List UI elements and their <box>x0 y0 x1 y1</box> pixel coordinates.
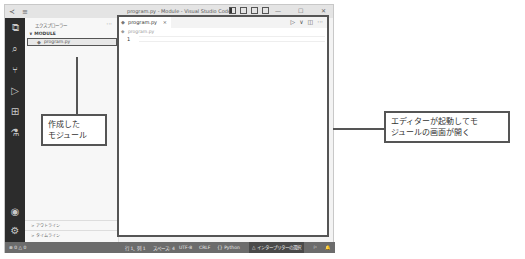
vscode-logo-icon: ≺ <box>7 8 17 16</box>
search-icon[interactable]: ⌕ <box>9 43 21 55</box>
source-control-icon[interactable]: ⑂ <box>9 64 21 76</box>
timeline-section[interactable]: > タイムライン <box>25 230 119 240</box>
menu-icon[interactable]: ≡ <box>20 8 30 16</box>
testing-icon[interactable]: ⚗ <box>9 127 21 139</box>
callout-editor: エディターが起動してモ ジュールの画面が開く <box>384 111 510 143</box>
select-interpreter[interactable]: △ インタープリターの選択 <box>249 242 304 253</box>
notifications-icon[interactable]: 🔔 <box>325 245 331 250</box>
callout-connector <box>76 57 78 115</box>
line-number: 1 <box>127 36 130 42</box>
explorer-icon[interactable]: ⧉ <box>9 22 21 34</box>
callout-text-line: モジュール <box>48 130 100 141</box>
toggle-panel-icon[interactable] <box>240 7 247 14</box>
more-actions-icon[interactable]: ··· <box>317 18 323 25</box>
more-actions-icon[interactable]: ··· <box>106 20 112 27</box>
file-name: program.py <box>44 39 70 44</box>
breadcrumb[interactable]: ◆ program.py <box>128 29 154 34</box>
language-mode[interactable]: {} Python <box>217 245 240 250</box>
customize-layout-icon[interactable] <box>262 7 269 14</box>
callout-text-line: エディターが起動してモ <box>391 116 503 127</box>
file-program-py[interactable]: ◆ program.py <box>27 38 117 46</box>
explorer-title: エクスプローラー <box>35 22 67 28</box>
python-file-icon: ◆ <box>121 17 125 28</box>
outline-section[interactable]: > アウトライン <box>25 220 119 230</box>
tab-program-py[interactable]: ◆ program.py × <box>119 17 171 28</box>
code-line-1[interactable] <box>139 36 325 42</box>
feedback-icon[interactable]: ⚐ <box>313 245 317 250</box>
maximize-button[interactable]: ☐ <box>298 7 303 14</box>
editor-area: ◆ program.py × ▷ ∨ ◫ ··· ◆ program.py 1 <box>117 15 329 237</box>
callout-text-line: 作成した <box>48 119 100 130</box>
toggle-sidebar-icon[interactable] <box>229 7 236 14</box>
python-file-icon: ◆ <box>121 29 124 34</box>
cursor-position[interactable]: 行 1、列 1 <box>125 245 146 251</box>
run-debug-icon[interactable]: ▷ <box>9 85 21 97</box>
minimize-button[interactable]: — <box>275 7 281 14</box>
run-menu-chevron-icon[interactable]: ∨ <box>299 18 303 25</box>
status-bar: ⊗ 0 △ 0 行 1、列 1 スペース: 4 UTF-8 CRLF {} Py… <box>5 242 335 253</box>
activity-bar: ⧉ ⌕ ⑂ ▷ ⊞ ⚗ ◉ ⚙ <box>5 18 25 242</box>
problems-status[interactable]: ⊗ 0 △ 0 <box>9 245 26 250</box>
layout-controls <box>229 7 269 14</box>
callout-module: 作成した モジュール <box>41 114 107 146</box>
editor-actions: ▷ ∨ ◫ ··· <box>291 18 323 25</box>
callout-text-line: ジュールの画面が開く <box>391 127 503 138</box>
close-button[interactable]: ✕ <box>321 7 326 14</box>
tab-label: program.py <box>128 19 157 25</box>
account-icon[interactable]: ◉ <box>9 206 21 218</box>
toggle-secondary-sidebar-icon[interactable] <box>251 7 258 14</box>
breadcrumb-file: program.py <box>128 29 154 34</box>
indent-spaces[interactable]: スペース: 4 <box>153 245 175 251</box>
end-of-line[interactable]: CRLF <box>199 245 210 250</box>
extensions-icon[interactable]: ⊞ <box>9 106 21 118</box>
folder-module[interactable]: ∨ MODULE <box>29 31 56 36</box>
python-file-icon: ◆ <box>37 39 41 45</box>
split-editor-icon[interactable]: ◫ <box>308 18 314 25</box>
callout-connector <box>333 128 385 130</box>
close-tab-icon[interactable]: × <box>163 19 167 25</box>
run-python-icon[interactable]: ▷ <box>291 18 296 25</box>
window-title: program.py - Module - Visual Studio Code <box>127 8 231 14</box>
encoding[interactable]: UTF-8 <box>179 245 192 250</box>
settings-gear-icon[interactable]: ⚙ <box>9 225 21 237</box>
